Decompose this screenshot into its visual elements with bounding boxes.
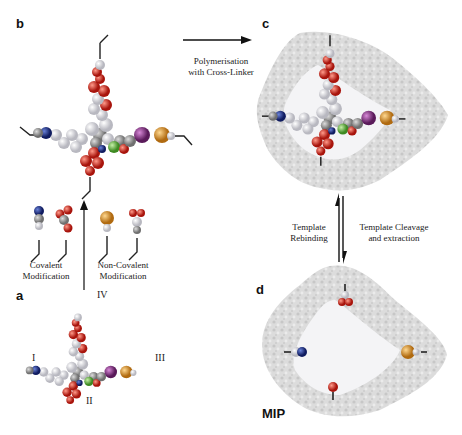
site-label-III: III <box>155 352 165 363</box>
monomer-set <box>31 206 145 263</box>
caption-cleavage-line2: and extraction <box>348 233 440 244</box>
arrow-a-to-b <box>80 200 88 290</box>
caption-non-covalent-line1: Non-Covalent <box>88 260 158 271</box>
caption-covalent: Covalent Modification <box>14 260 78 282</box>
panel-label-d: d <box>256 282 264 297</box>
panel-c-polymer-complex <box>257 32 448 191</box>
equilibrium-arrow-c-d <box>335 193 347 264</box>
caption-covalent-line2: Modification <box>14 271 78 282</box>
caption-rebinding-line2: Rebinding <box>282 233 336 244</box>
panel-label-c: c <box>262 16 269 31</box>
caption-rebinding-line1: Template <box>282 222 336 233</box>
panel-label-b: b <box>16 16 24 31</box>
arrow-b-to-c <box>183 36 252 44</box>
mip-label: MIP <box>262 406 285 421</box>
caption-non-covalent: Non-Covalent Modification <box>88 260 158 282</box>
panel-a-template <box>26 314 137 404</box>
site-label-II: II <box>86 395 93 406</box>
caption-polymerisation-line2: with Cross-Linker <box>176 67 266 78</box>
caption-template-cleavage: Template Cleavage and extraction <box>348 222 440 244</box>
site-label-I: I <box>32 352 35 363</box>
caption-polymerisation: Polymerisation with Cross-Linker <box>176 56 266 78</box>
caption-covalent-line1: Covalent <box>14 260 78 271</box>
panel-d-mip <box>262 265 447 416</box>
site-label-IV: IV <box>97 289 108 300</box>
panel-b-template <box>20 35 192 199</box>
caption-non-covalent-line2: Modification <box>88 271 158 282</box>
caption-polymerisation-line1: Polymerisation <box>176 56 266 67</box>
caption-cleavage-line1: Template Cleavage <box>348 222 440 233</box>
caption-template-rebinding: Template Rebinding <box>282 222 336 244</box>
panel-label-a: a <box>16 288 23 303</box>
